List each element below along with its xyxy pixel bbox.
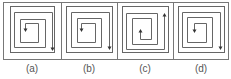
outer-square (67, 7, 113, 53)
arrowhead-icon (139, 29, 143, 33)
spiral-path (15, 13, 53, 50)
arrowhead-icon (108, 47, 112, 51)
option-c-figure (123, 7, 169, 53)
option-a-figure (11, 7, 55, 53)
spiral-path (127, 14, 165, 50)
option-b-label: (b) (61, 63, 117, 74)
arrowhead-icon (219, 47, 223, 51)
spiral-path (183, 13, 221, 49)
arrowhead-icon (51, 48, 55, 52)
outer-square (179, 7, 225, 53)
option-d-figure (179, 7, 225, 53)
arrowhead-icon (24, 29, 28, 33)
arrowhead-icon (163, 13, 167, 17)
outer-square (11, 7, 55, 53)
option-c-label: (c) (117, 63, 173, 74)
option-d-label: (d) (173, 63, 229, 74)
arrowhead-icon (80, 29, 84, 33)
panel-dividers (62, 2, 174, 59)
option-a-label: (a) (4, 63, 60, 74)
arrowhead-icon (193, 30, 197, 34)
spiral-path (72, 13, 110, 49)
option-b-figure (67, 7, 113, 53)
